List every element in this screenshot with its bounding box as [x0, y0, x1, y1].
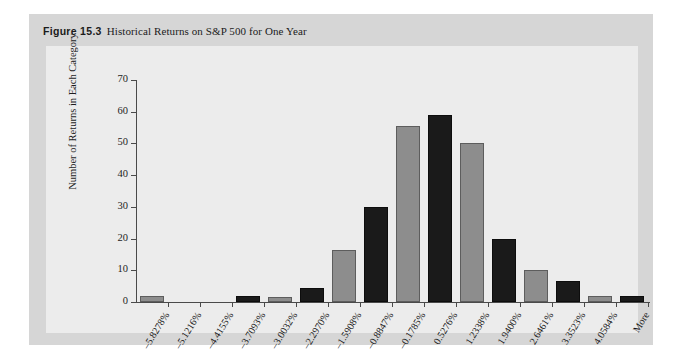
bar-slot: [232, 80, 264, 302]
x-axis-tick: [392, 302, 393, 307]
bar-slot: [168, 80, 200, 302]
x-axis-tick-label: 0.5276%: [431, 310, 459, 346]
bar-slot: [584, 80, 616, 302]
x-axis-tick: [456, 302, 457, 307]
x-axis-tick-label: –5.1216%: [172, 310, 203, 350]
x-axis-tick-label: –0.1785%: [396, 310, 427, 350]
x-axis-tick: [584, 302, 585, 307]
bar[interactable]: [556, 281, 580, 302]
x-axis-tick-label: 1.2338%: [463, 310, 491, 346]
x-axis-tick: [488, 302, 489, 307]
y-axis-tick: [131, 302, 136, 303]
bar[interactable]: [268, 297, 292, 302]
x-axis-tick: [616, 302, 617, 307]
x-axis-tick: [328, 302, 329, 307]
bar-slot: [552, 80, 584, 302]
x-axis-line: [136, 302, 650, 303]
bar[interactable]: [300, 288, 324, 302]
x-axis-tick: [360, 302, 361, 307]
bar-slot: [200, 80, 232, 302]
y-axis-title: Number of Returns in Each Category: [67, 0, 78, 224]
x-axis-tick: [648, 302, 649, 307]
x-axis-tick-label: –3.7093%: [236, 310, 267, 350]
x-axis-tick-label: –5.8278%: [140, 310, 171, 350]
y-axis-tick-label: 20: [88, 232, 128, 243]
bar[interactable]: [364, 207, 388, 302]
x-axis-tick-label: –2.2970%: [300, 310, 331, 350]
x-axis-tick: [168, 302, 169, 307]
plot-area: Number of Returns in Each Category 01020…: [46, 46, 638, 333]
x-axis-tick-label: –0.8847%: [364, 310, 395, 350]
x-axis-tick: [424, 302, 425, 307]
x-axis-tick: [232, 302, 233, 307]
figure-block: Figure 15.3Historical Returns on S&P 500…: [29, 14, 653, 345]
bar-slot: [136, 80, 168, 302]
bar-slot: [360, 80, 392, 302]
bar-slot: [520, 80, 552, 302]
x-axis-tick: [296, 302, 297, 307]
x-axis-tick-label: 2.6461%: [527, 310, 555, 346]
y-axis-tick-label: 40: [88, 168, 128, 179]
bar[interactable]: [492, 239, 516, 302]
bar[interactable]: [620, 296, 644, 302]
y-axis-tick-label: 70: [88, 73, 128, 84]
bar[interactable]: [396, 126, 420, 302]
bar-slot: [488, 80, 520, 302]
bar-slot: [424, 80, 456, 302]
bar[interactable]: [460, 143, 484, 302]
y-axis-tick-label: 30: [88, 200, 128, 211]
bar[interactable]: [236, 296, 260, 302]
figure-caption-text: Historical Returns on S&P 500 for One Ye…: [107, 25, 307, 37]
x-axis-tick: [552, 302, 553, 307]
x-axis-tick-label: 3.3523%: [559, 310, 587, 346]
bar-slot: [264, 80, 296, 302]
x-axis-tick-label: –3.0032%: [268, 310, 299, 350]
y-axis-tick-label: 60: [88, 105, 128, 116]
y-axis-tick-label: 50: [88, 136, 128, 147]
x-axis-tick: [520, 302, 521, 307]
figure-caption: Figure 15.3Historical Returns on S&P 500…: [43, 25, 307, 37]
x-axis-tick: [200, 302, 201, 307]
y-axis-tick-label: 0: [88, 295, 128, 306]
bar-series: [136, 80, 650, 302]
bar-slot: [328, 80, 360, 302]
bar[interactable]: [524, 270, 548, 302]
bar[interactable]: [140, 296, 164, 302]
x-axis-tick-label: 1.9400%: [495, 310, 523, 346]
bar[interactable]: [332, 250, 356, 302]
bar-slot: [392, 80, 424, 302]
x-axis-tick-label: –4.4155%: [204, 310, 235, 350]
bar-slot: [616, 80, 648, 302]
x-axis-tick: [264, 302, 265, 307]
y-axis-tick-label: 10: [88, 263, 128, 274]
bar[interactable]: [428, 115, 452, 302]
x-axis-tick-label: –1.5908%: [332, 310, 363, 350]
x-axis-tick-label: More: [631, 310, 652, 334]
bar-slot: [296, 80, 328, 302]
bar[interactable]: [588, 296, 612, 302]
bar-slot: [456, 80, 488, 302]
x-axis-tick-label: 4.0584%: [591, 310, 619, 346]
